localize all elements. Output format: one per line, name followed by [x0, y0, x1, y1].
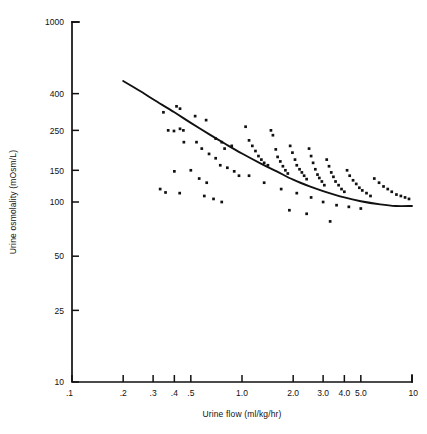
- data-point: [205, 119, 208, 122]
- x-tick-label: .4: [171, 388, 178, 398]
- data-point: [408, 198, 411, 201]
- x-axis-ticks: [72, 375, 412, 382]
- data-point: [361, 189, 364, 192]
- data-point: [295, 164, 298, 167]
- scatter-data-points: [159, 105, 411, 223]
- data-point: [348, 174, 351, 177]
- data-point: [334, 180, 337, 183]
- data-point: [294, 158, 297, 161]
- data-point: [175, 105, 178, 108]
- data-point: [373, 177, 376, 180]
- x-axis-tick-labels: .1.2.3.4.51.02.03.04.05.010: [66, 388, 418, 398]
- data-point: [182, 129, 185, 132]
- data-point: [282, 165, 285, 168]
- data-point: [223, 147, 226, 150]
- data-point: [332, 175, 335, 178]
- data-point: [328, 165, 331, 168]
- data-point: [314, 168, 317, 171]
- x-tick-label: .1: [66, 388, 73, 398]
- data-point: [369, 195, 372, 198]
- data-point: [208, 153, 211, 156]
- data-point: [355, 183, 358, 186]
- data-point: [286, 172, 289, 175]
- data-point: [358, 186, 361, 189]
- data-point: [274, 148, 277, 151]
- y-tick-label: 25: [55, 306, 65, 316]
- data-point: [189, 169, 192, 172]
- scatter-plot-figure: 1025501001502504001000 .1.2.3.4.51.02.03…: [0, 0, 427, 434]
- data-point: [162, 111, 165, 114]
- data-point: [295, 192, 298, 195]
- data-point: [257, 155, 260, 158]
- data-point: [337, 184, 340, 187]
- data-point: [343, 190, 346, 193]
- data-point: [382, 185, 385, 188]
- data-point: [305, 178, 308, 181]
- data-point: [312, 162, 315, 165]
- data-point: [352, 179, 355, 182]
- data-point: [248, 174, 251, 177]
- data-point: [219, 164, 222, 167]
- data-point: [316, 173, 319, 176]
- data-point: [390, 190, 393, 193]
- data-point: [321, 180, 324, 183]
- y-tick-label: 1000: [45, 17, 64, 27]
- data-point: [280, 188, 283, 191]
- chart-canvas: 1025501001502504001000 .1.2.3.4.51.02.03…: [0, 0, 427, 434]
- x-tick-label: 5.0: [355, 388, 367, 398]
- x-tick-label: 4.0: [338, 388, 350, 398]
- data-point: [288, 209, 291, 212]
- data-point: [322, 201, 325, 204]
- data-point: [263, 181, 266, 184]
- data-point: [404, 196, 407, 199]
- y-tick-label: 400: [50, 89, 64, 99]
- data-point: [178, 192, 181, 195]
- data-point: [301, 171, 304, 174]
- data-point: [318, 177, 321, 180]
- data-point: [220, 201, 223, 204]
- x-axis-label: Urine flow (ml/kg/hr): [202, 409, 281, 419]
- data-point: [233, 170, 236, 173]
- data-point: [159, 188, 162, 191]
- data-point: [323, 184, 326, 187]
- data-point: [330, 171, 333, 174]
- x-tick-label: 10: [409, 388, 419, 398]
- data-point: [200, 147, 203, 150]
- data-point: [167, 129, 170, 132]
- data-point: [244, 125, 247, 128]
- data-point: [173, 130, 176, 133]
- y-tick-label: 250: [50, 126, 64, 136]
- fitted-trend-curve: [123, 81, 412, 206]
- data-point: [279, 160, 282, 163]
- data-point: [310, 196, 313, 199]
- data-point: [164, 191, 167, 194]
- x-tick-label: 2.0: [287, 388, 299, 398]
- data-point: [305, 212, 308, 215]
- data-point: [205, 181, 208, 184]
- data-point: [179, 127, 182, 130]
- data-point: [203, 195, 206, 198]
- data-point: [195, 141, 198, 144]
- y-tick-label: 100: [50, 197, 64, 207]
- y-axis-tick-labels: 1025501001502504001000: [45, 17, 64, 387]
- data-point: [276, 156, 279, 159]
- data-point: [198, 177, 201, 180]
- data-point: [291, 151, 294, 154]
- data-point: [272, 134, 275, 137]
- data-point: [238, 174, 241, 177]
- x-tick-label: .5: [187, 388, 194, 398]
- data-point: [310, 155, 313, 158]
- y-tick-label: 10: [55, 377, 65, 387]
- data-point: [254, 150, 257, 153]
- data-point: [289, 145, 292, 148]
- data-point: [194, 115, 197, 118]
- data-point: [359, 207, 362, 210]
- data-point: [173, 170, 176, 173]
- data-point: [284, 169, 287, 172]
- x-tick-label: .3: [150, 388, 157, 398]
- x-tick-label: 1.0: [236, 388, 248, 398]
- data-point: [308, 147, 311, 150]
- y-tick-label: 50: [55, 251, 65, 261]
- data-point: [347, 205, 350, 208]
- data-point: [378, 181, 381, 184]
